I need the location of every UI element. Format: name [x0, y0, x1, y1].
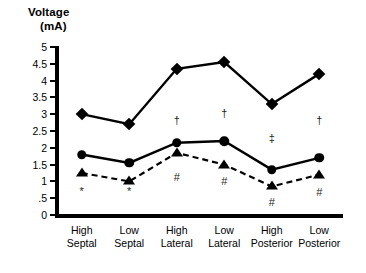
data-point-triangle — [313, 169, 325, 178]
y-axis-tick — [50, 96, 56, 98]
voltage-line-chart: Voltage (mA) 0.511.522.533.544.55 HighSe… — [0, 0, 366, 273]
x-axis-tick-label-line: Posterior — [284, 237, 354, 250]
data-point-triangle — [218, 159, 230, 168]
y-axis-tick-label: 4.5 — [32, 58, 47, 70]
significance-marker: † — [221, 107, 227, 118]
y-axis-tick-label: 4 — [41, 75, 47, 87]
data-point-triangle — [76, 168, 88, 177]
y-axis-tick-label: .5 — [38, 192, 47, 204]
significance-marker: # — [269, 196, 275, 207]
y-axis-tick — [50, 80, 56, 82]
y-axis-tick-label: 0 — [41, 209, 47, 221]
plot-area: **####††‡† — [58, 47, 343, 215]
y-axis-tick-label: 2 — [41, 142, 47, 154]
data-point-circle — [172, 138, 182, 148]
data-point-circle — [220, 136, 230, 146]
series-line-circle — [82, 141, 320, 170]
significance-marker: ‡ — [269, 133, 275, 144]
data-point-triangle — [171, 147, 183, 156]
significance-marker: * — [127, 185, 131, 196]
data-point-circle — [267, 165, 277, 175]
significance-marker: * — [80, 185, 84, 196]
significance-marker: # — [174, 172, 180, 183]
y-axis-tick-label: 1 — [41, 175, 47, 187]
y-axis-tick — [50, 113, 56, 115]
chart-title-line-1: Voltage — [28, 6, 69, 20]
significance-marker: † — [316, 115, 322, 126]
y-axis-tick-label: 2.5 — [32, 125, 47, 137]
data-point-circle — [77, 150, 87, 160]
series-line-diamond — [82, 62, 320, 124]
chart-title-line-2: (mA) — [40, 20, 67, 34]
significance-marker: # — [316, 187, 322, 198]
y-axis-tick — [50, 180, 56, 182]
y-axis-tick — [50, 130, 56, 132]
y-axis-tick — [50, 164, 56, 166]
data-point-circle — [125, 158, 135, 168]
y-axis-tick-label: 1.5 — [32, 159, 47, 171]
y-axis-tick-label: 3.5 — [32, 91, 47, 103]
y-axis-tick — [50, 214, 56, 216]
x-axis-tick-label: LowPosterior — [284, 224, 354, 249]
y-axis-tick — [50, 197, 56, 199]
x-axis-tick-label-line: Low — [284, 224, 354, 237]
y-axis-tick-label: 5 — [41, 41, 47, 53]
y-axis-tick — [50, 46, 56, 48]
y-axis-tick — [50, 147, 56, 149]
data-point-circle — [315, 153, 325, 163]
significance-marker: # — [221, 175, 227, 186]
y-axis-tick — [50, 63, 56, 65]
series-line-group — [58, 47, 343, 215]
significance-marker: † — [174, 115, 180, 126]
data-point-triangle — [266, 181, 278, 190]
y-axis-tick-label: 3 — [41, 108, 47, 120]
series-line-triangle — [82, 153, 320, 187]
